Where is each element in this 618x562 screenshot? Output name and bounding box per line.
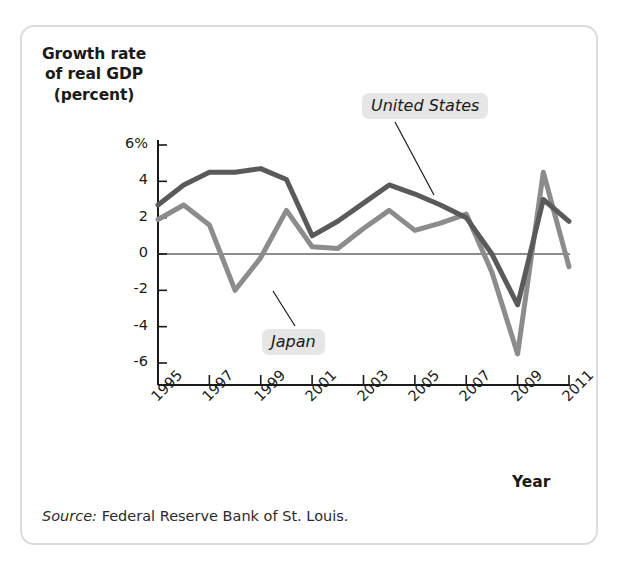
y-tick-label: 2	[102, 208, 148, 224]
series-label-united-states: United States	[362, 93, 488, 119]
series-label-japan: Japan	[262, 329, 325, 355]
y-tick-label: -6	[102, 353, 148, 369]
y-tick-label: 0	[102, 244, 148, 260]
source-note: Source: Federal Reserve Bank of St. Loui…	[42, 508, 348, 524]
x-axis-title: Year	[512, 473, 550, 491]
y-tick-label: 4	[102, 171, 148, 187]
y-tick-label: 6%	[102, 135, 148, 151]
y-tick-label: -2	[102, 280, 148, 296]
data-series-group	[158, 169, 569, 354]
source-prefix: Source:	[42, 508, 97, 524]
axes-group	[158, 140, 570, 385]
source-text: Federal Reserve Bank of St. Louis.	[102, 508, 349, 524]
figure-root: Growth rate of real GDP (percent) 6%420-…	[0, 0, 618, 562]
y-tick-label: -4	[102, 317, 148, 333]
